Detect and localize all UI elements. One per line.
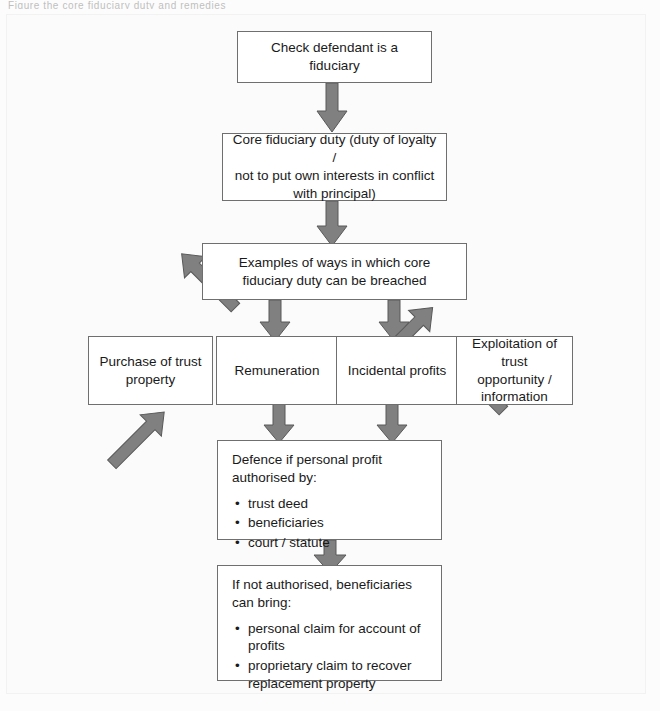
node-defence-line-2: authorised by:: [218, 469, 441, 487]
node-exploitation-line-1: Exploitation of trust: [457, 335, 572, 371]
node-core-duty-line-2: not to put own interests in conflict: [223, 167, 446, 185]
node-defence-line-1: Defence if personal profit: [218, 451, 441, 469]
list-item: personal claim for account of profits: [248, 620, 431, 656]
flowchart-page: Figure the core fiduciary duty and remed…: [0, 0, 660, 711]
node-exploitation-of-trust-opportunity: Exploitation of trust opportunity / info…: [456, 336, 573, 405]
connector-check-to-core: [316, 83, 348, 133]
node-examples-line-2: fiduciary duty can be breached: [203, 272, 466, 290]
node-purchase-line-2: property: [89, 371, 212, 389]
node-core-duty: Core fiduciary duty (duty of loyalty / n…: [222, 133, 447, 201]
node-purchase-line-1: Purchase of trust: [89, 353, 212, 371]
list-item: proprietary claim to recover replacement…: [248, 657, 431, 693]
node-remuneration: Remuneration: [216, 336, 338, 405]
node-defence-bullets: trust deed beneficiaries court / statute: [218, 495, 441, 554]
node-remedies: If not authorised, beneficiaries can bri…: [217, 565, 442, 681]
connector-core-to-examples: [316, 201, 348, 247]
node-purchase-of-trust-property: Purchase of trust property: [88, 336, 213, 405]
node-incidental-label: Incidental profits: [337, 362, 457, 380]
node-remedies-line-1: If not authorised, beneficiaries: [218, 576, 441, 594]
node-exploitation-line-3: information: [457, 388, 572, 406]
list-item: trust deed: [248, 495, 431, 513]
node-remuneration-label: Remuneration: [217, 362, 337, 380]
connector-remuneration-to-defence: [263, 404, 295, 444]
node-examples: Examples of ways in which core fiduciary…: [202, 243, 467, 300]
node-core-duty-line-3: with principal): [223, 185, 446, 203]
cut-off-caption: Figure the core fiduciary duty and remed…: [8, 0, 428, 9]
node-check-fiduciary: Check defendant is a fiduciary: [237, 31, 432, 83]
node-examples-line-1: Examples of ways in which core: [203, 254, 466, 272]
node-incidental-profits: Incidental profits: [336, 336, 458, 405]
node-core-duty-line-1: Core fiduciary duty (duty of loyalty /: [223, 131, 446, 167]
node-defence: Defence if personal profit authorised by…: [217, 440, 442, 540]
node-remedies-line-2: can bring:: [218, 594, 441, 612]
node-remedies-bullets: personal claim for account of profits pr…: [218, 620, 441, 695]
node-check-fiduciary-label: Check defendant is a fiduciary: [238, 39, 431, 75]
node-exploitation-line-2: opportunity /: [457, 371, 572, 389]
list-item: beneficiaries: [248, 514, 431, 532]
list-item: court / statute: [248, 534, 431, 552]
